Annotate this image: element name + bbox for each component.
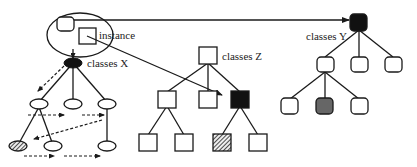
classes-x-node — [98, 99, 116, 109]
classes-x-node — [44, 141, 62, 151]
classes-z-node — [175, 134, 193, 151]
diagram-canvas: instance classes X classes Z classes Y — [0, 0, 417, 167]
classes-z-root — [199, 47, 217, 64]
classes-z-black-node — [231, 91, 249, 108]
classes-y-gray-leaf — [316, 98, 333, 114]
classes-z-node — [199, 91, 217, 108]
classes-x-node — [64, 99, 82, 109]
classes-z-label: classes Z — [222, 50, 262, 62]
diagram-svg — [0, 0, 417, 167]
classes-z-node — [249, 134, 267, 151]
classes-y-node — [385, 57, 402, 72]
instance-label: instance — [99, 29, 135, 41]
classes-y-node — [351, 98, 368, 114]
classes-z-hatched-leaf — [213, 134, 231, 151]
classes-y-label: classes Y — [306, 30, 347, 42]
classes-x-hatched-leaf — [9, 141, 27, 151]
classes-y-node — [281, 98, 298, 114]
classes-x-node — [30, 99, 48, 109]
classes-z-node — [158, 91, 176, 108]
classes-x-root — [64, 58, 82, 68]
classes-y-node — [351, 57, 368, 72]
classes-x-node — [98, 141, 116, 151]
classes-x-label: classes X — [87, 57, 128, 69]
classes-z-node — [139, 134, 157, 151]
classes-y-root — [350, 14, 367, 31]
instance-rounded-node — [57, 17, 74, 31]
classes-y-node — [317, 57, 334, 72]
